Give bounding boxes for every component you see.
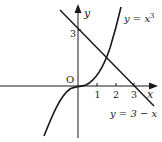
- x-tick-label-3: 3: [131, 89, 137, 100]
- line-label: y = 3 − x: [109, 108, 157, 119]
- x-tick-label-2: 2: [113, 89, 119, 100]
- graph-svg: y x O 1 2 3 3 y = x3 y = 3 − x: [0, 0, 162, 142]
- cubic-label-main: y = x: [123, 13, 150, 24]
- x-tick-label-1: 1: [95, 89, 101, 100]
- x-axis-label: x: [147, 88, 154, 101]
- origin-label: O: [66, 74, 74, 85]
- cubic-label-exponent: 3: [150, 12, 154, 20]
- y-axis-arrow-icon: [75, 4, 82, 13]
- cubic-label: y = x3: [123, 12, 155, 24]
- y-tick-label-3: 3: [70, 28, 76, 39]
- function-graph: y x O 1 2 3 3 y = x3 y = 3 − x: [0, 0, 162, 142]
- y-axis-label: y: [83, 7, 91, 20]
